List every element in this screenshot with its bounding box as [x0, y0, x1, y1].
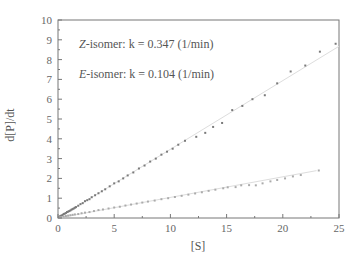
- e-isomer-point: [248, 184, 250, 186]
- x-tick-label: 0: [55, 222, 61, 234]
- e-isomer-point: [81, 212, 83, 214]
- e-isomer-point: [65, 215, 67, 217]
- z-isomer-point: [91, 196, 93, 198]
- e-isomer-point: [84, 212, 86, 214]
- y-tick-label: 7: [47, 73, 53, 85]
- kinetics-scatter-chart: 0510152025 012345678910 [S] d[P]/dt Z-is…: [0, 0, 355, 267]
- e-isomer-point: [147, 201, 149, 203]
- z-isomer-point: [77, 205, 79, 207]
- e-isomer-point: [154, 200, 156, 202]
- z-isomer-point: [84, 200, 86, 202]
- z-isomer-point: [104, 188, 106, 190]
- e-isomer-point: [181, 195, 183, 197]
- y-tick-label: 3: [47, 153, 53, 165]
- e-isomer-point: [276, 179, 278, 181]
- x-tick-label: 25: [334, 222, 346, 234]
- legend-z-isomer: Z-isomer: k = 0.347 (1/min): [79, 37, 213, 51]
- e-isomer-point: [318, 169, 320, 171]
- y-tick-label: 6: [47, 93, 53, 105]
- e-isomer-point: [160, 198, 162, 200]
- e-isomer-point: [167, 197, 169, 199]
- e-isomer-point: [69, 214, 71, 216]
- e-isomer-point: [194, 192, 196, 194]
- z-isomer-point: [144, 165, 146, 167]
- e-isomer-point: [141, 202, 143, 204]
- z-isomer-point: [231, 109, 233, 111]
- e-isomer-point: [187, 194, 189, 196]
- e-isomer-point: [240, 184, 242, 186]
- z-isomer-point: [221, 122, 223, 124]
- y-tick-label: 9: [47, 34, 53, 46]
- e-isomer-point: [93, 210, 95, 212]
- y-tick-label: 8: [47, 54, 53, 66]
- z-isomer-point: [184, 140, 186, 142]
- e-isomer-point: [201, 191, 203, 193]
- z-isomer-point: [160, 154, 162, 156]
- y-tick-label: 4: [47, 133, 53, 145]
- e-isomer-point: [269, 180, 271, 182]
- e-isomer-point: [208, 190, 210, 192]
- z-isomer-point: [132, 171, 134, 173]
- y-tick-label: 10: [41, 14, 53, 26]
- z-isomer-point: [264, 94, 266, 96]
- e-isomer-point: [227, 186, 229, 188]
- z-isomer-point: [251, 98, 253, 100]
- z-isomer-point: [177, 144, 179, 146]
- x-tick-label: 10: [165, 222, 177, 234]
- z-isomer-point: [122, 177, 124, 179]
- y-tick-label: 0: [47, 212, 53, 224]
- y-tick-label: 5: [47, 113, 53, 125]
- e-isomer-point: [255, 184, 257, 186]
- z-isomer-point: [118, 180, 120, 182]
- y-tick-label: 2: [47, 172, 53, 184]
- x-axis-ticks: 0510152025: [55, 214, 345, 234]
- z-isomer-point: [155, 158, 157, 160]
- e-isomer-point: [284, 177, 286, 179]
- x-axis-title: [S]: [191, 239, 206, 253]
- z-isomer-point: [335, 43, 337, 45]
- y-tick-label: 1: [47, 192, 53, 204]
- z-isomer-point: [113, 182, 115, 184]
- e-isomer-point: [67, 215, 69, 217]
- legend-e-text: -isomer: k = 0.104 (1/min): [86, 67, 214, 81]
- z-isomer-point: [101, 190, 103, 192]
- z-isomer-point: [109, 185, 111, 187]
- e-isomer-point: [77, 213, 79, 215]
- y-axis-ticks: 012345678910: [41, 14, 62, 224]
- z-isomer-point: [241, 105, 243, 107]
- z-isomer-point: [138, 168, 140, 170]
- e-isomer-point: [235, 186, 237, 188]
- e-isomer-point: [174, 196, 176, 198]
- e-isomer-point: [97, 209, 99, 211]
- z-isomer-point: [212, 126, 214, 128]
- x-tick-label: 20: [277, 222, 289, 234]
- e-isomer-point: [113, 207, 115, 209]
- e-isomer-point: [102, 208, 104, 210]
- z-isomer-point: [127, 174, 129, 176]
- z-isomer-point: [195, 136, 197, 138]
- z-isomer-point: [319, 51, 321, 53]
- e-isomer-point: [300, 174, 302, 176]
- e-isomer-point: [136, 203, 138, 205]
- e-isomer-point: [74, 213, 76, 215]
- e-isomer-point: [72, 214, 74, 216]
- e-isomer-point: [214, 189, 216, 191]
- z-isomer-point: [166, 151, 168, 153]
- e-isomer-point: [130, 204, 132, 206]
- legend-e-isomer: E-isomer: k = 0.104 (1/min): [78, 67, 214, 81]
- z-isomer-point: [204, 132, 206, 134]
- x-tick-label: 15: [221, 222, 233, 234]
- z-isomer-point: [290, 70, 292, 72]
- z-isomer-point: [79, 203, 81, 205]
- y-axis-title: d[P]/dt: [3, 108, 17, 142]
- z-isomer-point: [276, 82, 278, 84]
- e-isomer-point: [88, 211, 90, 213]
- z-isomer-point: [304, 65, 306, 67]
- z-isomer-point: [86, 199, 88, 201]
- e-isomer-point: [63, 216, 65, 218]
- e-isomer-point: [292, 175, 294, 177]
- z-isomer-point: [149, 161, 151, 163]
- e-isomer-point: [108, 207, 110, 209]
- z-isomer-point: [75, 206, 77, 208]
- legend-z-text: -isomer: k = 0.347 (1/min): [86, 37, 214, 51]
